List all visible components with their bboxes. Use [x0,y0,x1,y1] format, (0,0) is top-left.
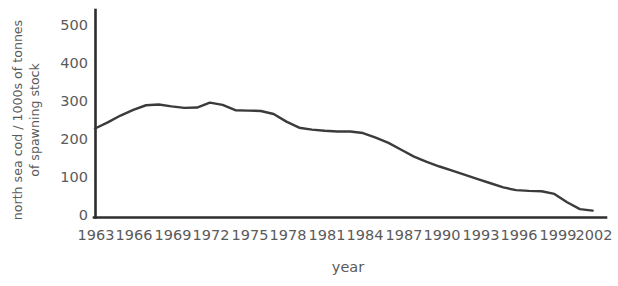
chart-figure: north sea cod / 1000s of tonnes of spawn… [0,0,618,286]
series-line-north-sea-cod [95,103,593,211]
x-tick-label-1987: 1987 [386,227,423,243]
x-tick-label-1999: 1999 [540,227,577,243]
x-tick-label-1978: 1978 [270,227,307,243]
x-tick-label-1975: 1975 [232,227,269,243]
x-tick-label-1993: 1993 [463,227,500,243]
x-tick-label-1969: 1969 [155,227,192,243]
x-tick-label-1984: 1984 [347,227,384,243]
y-axis-label: north sea cod / 1000s of tonnes of spawn… [10,20,42,220]
y-tick-label-400: 400 [60,55,88,71]
line-chart-canvas: north sea cod / 1000s of tonnes of spawn… [0,0,618,286]
x-axis-tick-labels: 1963 1966 1969 1972 1975 1978 1981 1984 … [78,227,613,243]
x-tick-label-1972: 1972 [193,227,230,243]
y-axis-label-line2: of spawning stock [27,63,42,177]
y-tick-label-100: 100 [60,169,88,185]
x-axis-title: year [332,259,364,275]
x-tick-label-2002: 2002 [576,227,613,243]
x-tick-label-1963: 1963 [78,227,115,243]
y-axis-label-line1: north sea cod / 1000s of tonnes [10,20,25,220]
x-tick-label-1990: 1990 [424,227,461,243]
x-tick-label-1996: 1996 [501,227,538,243]
y-axis-tick-labels: 500 400 300 200 100 0 [60,17,88,223]
x-tick-label-1966: 1966 [116,227,153,243]
y-tick-label-500: 500 [60,17,88,33]
y-tick-label-300: 300 [60,93,88,109]
x-tick-label-1981: 1981 [309,227,346,243]
y-tick-label-200: 200 [60,131,88,147]
y-tick-label-0: 0 [79,207,88,223]
